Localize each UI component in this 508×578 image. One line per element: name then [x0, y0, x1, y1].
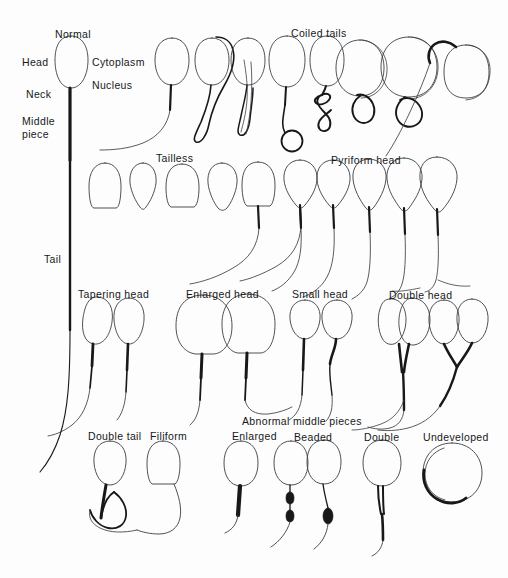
- specimen-enlarged-mp: [224, 441, 258, 533]
- tail-stub-a-cont: [190, 228, 259, 284]
- label-small-head-text: Small head: [292, 288, 348, 300]
- label-cytoplasm: Cytoplasm: [92, 56, 145, 68]
- label-coiled-tails: Coiled tails: [291, 27, 347, 39]
- specimen-coiled-loop-2: [231, 38, 265, 135]
- label-normal: Normal: [55, 28, 91, 40]
- label-enlarged-head-text: Enlarged head: [186, 288, 259, 300]
- specimen-enlarged-head-2: [222, 294, 292, 414]
- specimen-double-head-1: [352, 298, 430, 430]
- label-filiform-text: Filiform: [150, 430, 187, 442]
- label-beaded-text: Beaded: [294, 431, 332, 443]
- label-filiform: Filiform: [150, 430, 187, 442]
- label-tailless: Tailless: [156, 152, 193, 164]
- label-cytoplasm-text: Cytoplasm: [92, 56, 145, 68]
- label-abnormal-middle-pieces-text: Abnormal middle pieces: [242, 415, 362, 427]
- label-middle-piece-text: Middle piece: [22, 115, 55, 140]
- specimen-pyriform-2: [303, 160, 350, 297]
- label-tapering-head: Tapering head: [78, 288, 149, 300]
- specimen-double-tail: [89, 441, 137, 532]
- specimen-pyriform-1: [272, 160, 317, 291]
- label-head: Head: [22, 56, 49, 68]
- specimen-tailless-3: [166, 164, 199, 207]
- label-abnormal-middle-pieces: Abnormal middle pieces: [242, 415, 362, 427]
- label-tail-text: Tail: [44, 253, 61, 265]
- label-nucleus-text: Nucleus: [92, 79, 132, 91]
- specimen-tailless-1: [89, 163, 121, 208]
- specimen-tailless-5: [242, 162, 275, 206]
- label-pyriform-head-text: Pyriform head: [331, 154, 401, 166]
- label-head-text: Head: [22, 56, 49, 68]
- label-tail: Tail: [44, 253, 61, 265]
- label-double-tail-text: Double tail: [88, 430, 141, 442]
- specimen-coiled-knot-4: [310, 36, 344, 131]
- label-tailless-text: Tailless: [156, 152, 193, 164]
- specimen-coiled-loop-1: [194, 37, 234, 142]
- label-beaded: Beaded: [294, 431, 332, 443]
- label-double-text: Double: [364, 431, 399, 443]
- specimen-tapering-2: [114, 298, 144, 420]
- label-undeveloped: Undeveloped: [423, 431, 489, 443]
- label-normal-text: Normal: [55, 28, 91, 40]
- specimen-double-mp: [363, 440, 401, 556]
- specimen-tailless-2: [130, 163, 156, 209]
- label-double-tail: Double tail: [88, 430, 141, 442]
- specimen-tapering-1: [48, 297, 112, 436]
- label-pyriform-head: Pyriform head: [331, 154, 401, 166]
- specimen-beaded-mp-1: [271, 441, 308, 547]
- specimen-pyriform-5: [420, 157, 470, 292]
- specimen-undeveloped: [423, 443, 482, 503]
- label-neck: Neck: [26, 88, 51, 100]
- specimen-tailless-4: [208, 163, 237, 210]
- label-middle-piece: Middle piece: [22, 115, 66, 140]
- label-double-head-text: Double head: [389, 289, 452, 301]
- specimen-beaded-mp-2: [307, 440, 341, 549]
- specimen-coiled-curved-tail: [100, 38, 189, 150]
- specimen-filiform: [137, 441, 181, 534]
- label-double: Double: [364, 431, 399, 443]
- label-neck-text: Neck: [26, 88, 51, 100]
- label-tapering-head-text: Tapering head: [78, 288, 149, 300]
- sperm-morphology-figure: Normal Head Cytoplasm Nucleus Neck Middl…: [0, 0, 508, 578]
- label-small-head: Small head: [292, 288, 348, 300]
- tail-stub-a: [258, 206, 259, 228]
- specimen-small-head-2: [322, 300, 352, 421]
- label-double-head: Double head: [389, 289, 452, 301]
- label-enlarged: Enlarged: [232, 430, 277, 442]
- specimen-pyriform-4: [387, 158, 422, 298]
- specimen-enlarged-head-1: [176, 295, 232, 425]
- tail-stub-b-cont: [240, 226, 301, 281]
- label-enlarged-head: Enlarged head: [186, 288, 259, 300]
- label-undeveloped-text: Undeveloped: [423, 431, 489, 443]
- specimen-small-head-1: [289, 300, 320, 420]
- specimen-double-head-2: [378, 299, 488, 431]
- label-coiled-tails-text: Coiled tails: [291, 27, 347, 39]
- label-enlarged-text: Enlarged: [232, 430, 277, 442]
- specimen-coiled-ring-3: [269, 36, 305, 152]
- label-nucleus: Nucleus: [92, 79, 132, 91]
- specimen-pyriform-3: [352, 159, 386, 299]
